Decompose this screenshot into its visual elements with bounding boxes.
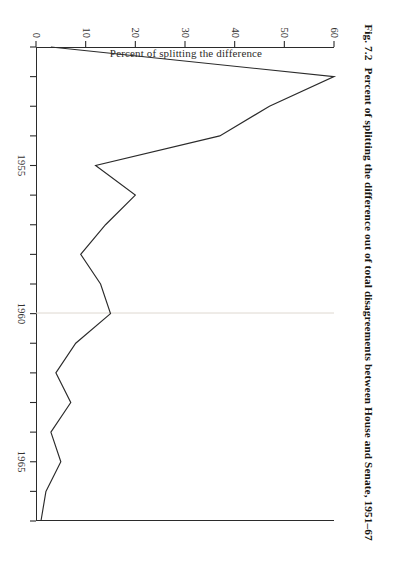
y-tick-label: 30 — [180, 17, 191, 38]
data-series-line — [41, 47, 334, 521]
figure-caption: Fig. 7.2 Percent of splitting the differ… — [361, 0, 378, 565]
figure-caption-text: Percent of splitting the difference out … — [364, 67, 376, 540]
rotated-figure-stage: 195519601965 0102030405060 Percent of sp… — [0, 0, 360, 565]
x-axis-ticks — [30, 47, 36, 521]
y-tick-label: 10 — [80, 17, 91, 38]
y-tick-label: 20 — [130, 17, 141, 38]
x-tick-label: 1965 — [16, 451, 27, 473]
y-tick-label: 40 — [229, 17, 240, 38]
y-tick-label: 0 — [31, 17, 42, 38]
x-tick-label: 1960 — [16, 303, 27, 325]
x-tick-label: 1955 — [16, 155, 27, 177]
plot-area: 195519601965 0102030405060 Percent of sp… — [36, 47, 334, 521]
figure-page: 195519601965 0102030405060 Percent of sp… — [0, 0, 395, 565]
y-tick-label: 60 — [329, 17, 340, 38]
y-axis-title: Percent of splitting the difference — [110, 47, 262, 59]
line-chart-svg — [36, 47, 334, 521]
y-tick-label: 50 — [279, 17, 290, 38]
figure-number: Fig. 7.2 — [364, 24, 376, 60]
